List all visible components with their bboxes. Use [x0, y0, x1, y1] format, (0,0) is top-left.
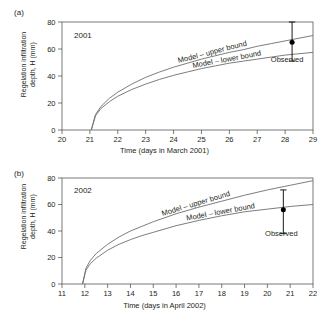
x-tick-label: 16 [172, 289, 180, 298]
observed-label: Observed [265, 229, 298, 238]
y-tick-label: 20 [47, 99, 55, 108]
x-tick-label: 22 [309, 289, 317, 298]
y-tick-label: 0 [51, 126, 55, 135]
x-tick-label: 24 [169, 135, 177, 144]
observed-group [280, 190, 286, 234]
y-tick-label: 40 [47, 72, 55, 81]
x-tick-label: 20 [263, 289, 271, 298]
observed-marker [290, 40, 295, 45]
x-tick-label: 14 [126, 289, 134, 298]
x-tick-label: 20 [58, 135, 66, 144]
y-tick-label: 0 [51, 280, 55, 289]
panel-b-plot: 020406080111213141516171819202122Model –… [0, 163, 329, 326]
x-tick-label: 13 [103, 289, 111, 298]
panel-b: (b) Regelation infiltration depth, H (mm… [0, 163, 329, 326]
y-tick-label: 80 [47, 18, 55, 27]
x-tick-label: 12 [81, 289, 89, 298]
figure-regelation-infiltration: (a) Regelation infiltration depth, H (mm… [0, 0, 329, 326]
y-tick-label: 20 [47, 253, 55, 262]
x-tick-label: 17 [195, 289, 203, 298]
y-tick-label: 60 [47, 200, 55, 209]
x-tick-label: 23 [141, 135, 149, 144]
y-tick-label: 60 [47, 45, 55, 54]
observed-marker [281, 207, 286, 212]
y-tick-label: 80 [47, 174, 55, 183]
x-tick-label: 19 [240, 289, 248, 298]
x-tick-label: 18 [218, 289, 226, 298]
x-tick-label: 27 [253, 135, 261, 144]
plot-frame [62, 22, 313, 130]
x-tick-label: 11 [58, 289, 66, 298]
x-tick-label: 26 [225, 135, 233, 144]
panel-a-plot: 02040608020212223242526272829Model – upp… [0, 0, 329, 163]
x-tick-label: 25 [197, 135, 205, 144]
x-tick-label: 21 [86, 135, 94, 144]
x-tick-label: 22 [114, 135, 122, 144]
x-tick-label: 28 [281, 135, 289, 144]
x-tick-label: 21 [286, 289, 294, 298]
observed-label: Observed [271, 55, 304, 64]
x-tick-label: 29 [309, 135, 317, 144]
x-tick-label: 15 [149, 289, 157, 298]
y-tick-label: 40 [47, 227, 55, 236]
panel-a: (a) Regelation infiltration depth, H (mm… [0, 0, 329, 163]
